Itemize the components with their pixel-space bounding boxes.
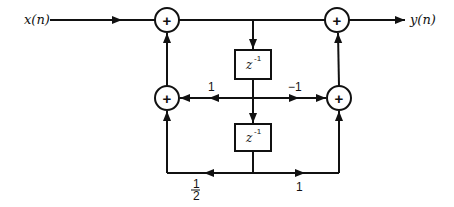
plus-icon: + bbox=[335, 90, 344, 107]
plus-icon: + bbox=[163, 12, 172, 29]
delay-1-exponent: -1 bbox=[254, 54, 262, 63]
input-label-x-n: x(n) bbox=[24, 12, 50, 27]
output-label-y-n: y(n) bbox=[409, 12, 436, 27]
plus-icon: + bbox=[333, 12, 342, 29]
adder-mid-left: + bbox=[155, 86, 179, 110]
delay-2-exponent: -1 bbox=[254, 127, 262, 136]
arrow-input bbox=[112, 16, 122, 24]
gain-bottom-left-denominator: 2 bbox=[193, 189, 200, 203]
wire-right-up-top bbox=[338, 33, 339, 86]
arrow-bottom-right-gain bbox=[295, 169, 305, 177]
delay-1-box bbox=[235, 50, 271, 79]
adder-mid-right: + bbox=[327, 86, 351, 110]
arrow-mid-left-gain bbox=[209, 94, 219, 102]
delay-2-box bbox=[235, 124, 271, 151]
block-diagram: x(n) y(n) z -1 1 −1 z -1 1 2 1 bbox=[0, 0, 454, 207]
gain-mid-right: −1 bbox=[288, 80, 302, 94]
arrow-mid-right-gain bbox=[289, 94, 299, 102]
gain-bottom-right: 1 bbox=[296, 180, 303, 194]
delay-2-z: z bbox=[245, 131, 253, 145]
adder-top-left: + bbox=[155, 8, 179, 32]
arrow-bottom-left-gain bbox=[204, 169, 214, 177]
adder-top-right: + bbox=[325, 8, 349, 32]
delay-1-z: z bbox=[245, 58, 253, 72]
gain-mid-left: 1 bbox=[208, 80, 215, 94]
plus-icon: + bbox=[163, 90, 172, 107]
